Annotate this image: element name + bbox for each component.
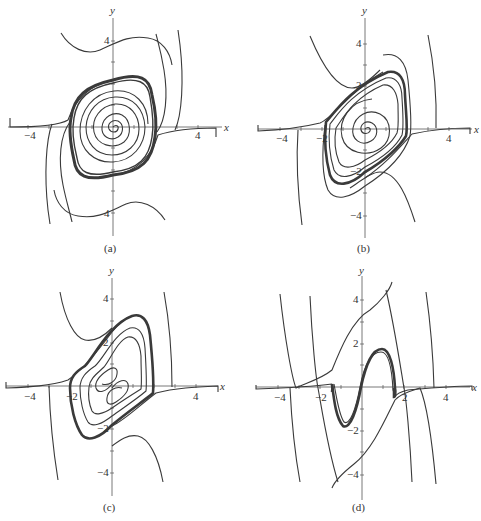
y-tick-neg2-b: −2 xyxy=(350,165,362,177)
y-axis-label-c: y xyxy=(108,264,114,276)
x-tick-neg2-c: −2 xyxy=(66,390,78,402)
x-axis-label-d: x xyxy=(471,381,477,393)
x-axis-label-a: x xyxy=(223,121,229,133)
panel-c: −4 −2 4 4 2 −2 −4 x y (c) xyxy=(0,260,240,521)
x-tick-4-d: 4 xyxy=(443,391,449,403)
x-tick-neg2-d: −2 xyxy=(315,391,327,403)
x-tick-neg4-b: −4 xyxy=(276,132,288,144)
y-tick-neg2-c: −2 xyxy=(97,422,109,434)
x-tick-neg2-b: −2 xyxy=(316,132,328,144)
y-tick-neg4-d: −4 xyxy=(347,468,359,480)
y-tick-4-b: 4 xyxy=(356,37,362,49)
y-axis-label-a: y xyxy=(109,4,115,16)
y-tick-neg4-c: −4 xyxy=(97,466,109,478)
caption-b: (b) xyxy=(357,242,370,254)
caption-a: (a) xyxy=(104,242,116,254)
phase-portrait-b: −4 −2 4 4 2 −2 −4 x y xyxy=(240,0,481,260)
x-tick-4-a: 4 xyxy=(195,129,201,141)
panel-b: −4 −2 4 4 2 −2 −4 x y (b) xyxy=(240,0,481,260)
y-tick-4-a: 4 xyxy=(104,34,110,46)
y-tick-neg4-b: −4 xyxy=(350,209,362,221)
y-tick-neg2-d: −2 xyxy=(347,424,359,436)
panel-a: −4 4 4 4 x y (a) xyxy=(0,0,240,260)
x-tick-2-d: 2 xyxy=(402,391,408,403)
x-axis-label-b: x xyxy=(473,123,479,135)
y-tick-4-d: 4 xyxy=(353,293,359,305)
caption-d: (d) xyxy=(352,501,365,513)
phase-portrait-c: −4 −2 4 4 2 −2 −4 x y xyxy=(0,260,240,521)
x-tick-neg4-d: −4 xyxy=(274,391,286,403)
phase-portrait-d: −4 −2 2 4 4 2 −2 −4 x y xyxy=(240,260,481,521)
y-axis-label-d: y xyxy=(358,264,364,276)
phase-portrait-a: −4 4 4 4 x y xyxy=(0,0,240,260)
x-axis-label-c: x xyxy=(219,380,225,392)
y-tick-4-c: 4 xyxy=(103,292,109,304)
caption-c: (c) xyxy=(103,501,115,513)
x-tick-4-b: 4 xyxy=(446,132,452,144)
x-tick-4-c: 4 xyxy=(193,390,199,402)
x-tick-neg4-c: −4 xyxy=(24,390,36,402)
panel-d: −4 −2 2 4 4 2 −2 −4 x y (d) xyxy=(240,260,481,521)
x-tick-neg4-a: −4 xyxy=(24,129,36,141)
y-tick-2-b: 2 xyxy=(356,79,362,91)
y-tick-2-d: 2 xyxy=(353,337,359,349)
y-tick-neg4-a: 4 xyxy=(104,207,110,219)
y-axis-label-b: y xyxy=(361,4,367,16)
y-tick-2-c: 2 xyxy=(103,336,109,348)
